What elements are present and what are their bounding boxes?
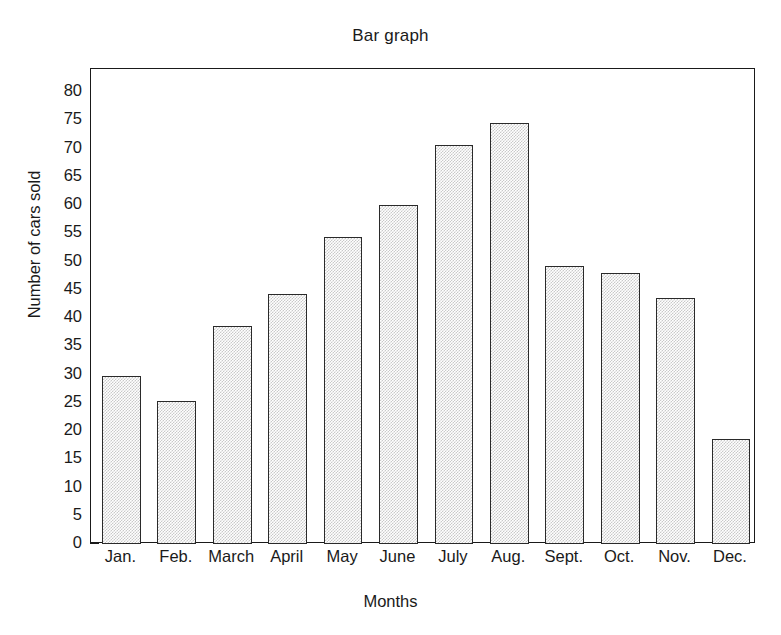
y-tick-label: 45 xyxy=(38,277,82,299)
bar-nov xyxy=(656,298,695,544)
bar-march xyxy=(213,326,252,544)
bar-dec xyxy=(712,439,751,544)
x-tick-label-dec: Dec. xyxy=(690,547,770,566)
bar-aug xyxy=(490,123,529,544)
bar-july xyxy=(435,145,474,544)
chart-title: Bar graph xyxy=(0,26,781,46)
bar-chart-figure: Bar graph Number of cars sold 0510152025… xyxy=(0,0,781,635)
y-tick-label: 15 xyxy=(38,446,82,468)
y-tick-label: 20 xyxy=(38,418,82,440)
plot-area xyxy=(90,68,755,543)
y-tick-label: 0 xyxy=(38,531,82,553)
y-tick-label: 60 xyxy=(38,192,82,214)
bar-april xyxy=(268,294,307,544)
y-tick-label: 30 xyxy=(38,362,82,384)
bars-layer xyxy=(91,69,756,544)
bar-oct xyxy=(601,273,640,544)
y-tick-label: 35 xyxy=(38,333,82,355)
y-tick-label: 40 xyxy=(38,305,82,327)
bar-june xyxy=(379,205,418,544)
y-tick-label: 25 xyxy=(38,390,82,412)
bar-feb xyxy=(157,401,196,544)
bar-jan xyxy=(102,376,141,544)
bar-may xyxy=(324,237,363,544)
y-tick-label: 5 xyxy=(38,503,82,525)
y-tick-label: 70 xyxy=(38,136,82,158)
y-tick-label: 80 xyxy=(38,79,82,101)
y-tick-label: 10 xyxy=(38,475,82,497)
y-tick-label: 55 xyxy=(38,220,82,242)
x-axis-title: Months xyxy=(0,592,781,611)
y-tick-label: 75 xyxy=(38,107,82,129)
bar-sept xyxy=(545,266,584,544)
y-tick-label: 50 xyxy=(38,249,82,271)
y-tick-label: 65 xyxy=(38,164,82,186)
